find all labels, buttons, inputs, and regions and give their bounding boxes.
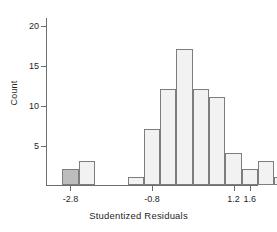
histogram-bar (209, 97, 225, 185)
y-tick-mark (41, 146, 46, 147)
x-tick-label: -2.8 (63, 194, 79, 204)
x-tick-label: -0.8 (144, 194, 160, 204)
histogram-bar (193, 89, 209, 185)
y-axis-line (46, 18, 47, 186)
x-tick-mark (250, 186, 251, 191)
x-tick-mark (70, 186, 71, 191)
x-tick-mark (152, 186, 153, 191)
y-tick-mark (41, 66, 46, 67)
y-tick-label: 20 (29, 21, 39, 31)
histogram-bar (79, 161, 95, 185)
y-tick-label: 10 (29, 101, 39, 111)
histogram-bar (225, 153, 241, 185)
y-axis-title: Count (2, 0, 26, 185)
histogram-bar (144, 129, 160, 185)
histogram-bar (160, 89, 176, 185)
plot-area: 5101520 -2.8-0.81.21.6 (46, 18, 258, 186)
y-axis-title-text: Count (9, 80, 19, 105)
histogram-bar (274, 177, 277, 185)
x-axis-title: Studentized Residuals (0, 210, 277, 221)
x-axis-title-text: Studentized Residuals (89, 210, 188, 221)
x-tick-mark (234, 186, 235, 191)
histogram-bar (128, 177, 144, 185)
x-tick-label: 1.2 (227, 194, 240, 204)
x-tick-label: 1.6 (244, 194, 257, 204)
histogram-bar (258, 161, 274, 185)
histogram-figure: Count 5101520 -2.8-0.81.21.6 Studentized… (0, 0, 277, 232)
y-tick-mark (41, 26, 46, 27)
y-tick-label: 5 (34, 141, 39, 151)
histogram-bar (242, 169, 258, 185)
y-tick-mark (41, 106, 46, 107)
y-tick-label: 15 (29, 61, 39, 71)
histogram-bar-highlighted (62, 169, 78, 185)
histogram-bar (176, 49, 192, 185)
